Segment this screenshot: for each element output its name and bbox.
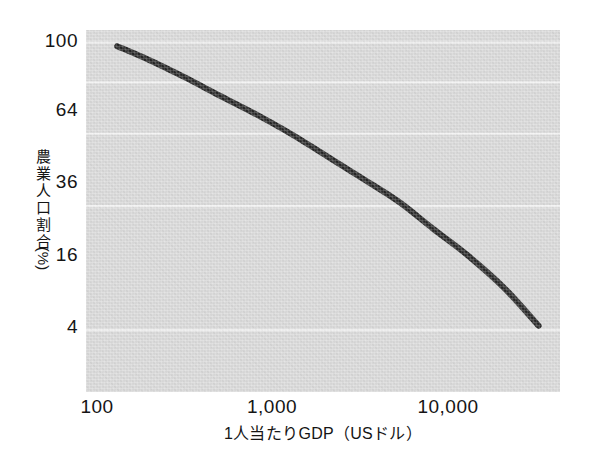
y-axis-title: 農 業 人 口 割 合 (%) xyxy=(30,148,56,267)
x-tick-label-1000: 1,000 xyxy=(247,396,297,418)
y-axis-title-char-4: 割 xyxy=(30,216,56,233)
y-axis-title-unit: (%) xyxy=(35,246,52,272)
x-axis-title: 1人当たりGDP（USドル） xyxy=(86,420,560,444)
x-tick-label-100: 100 xyxy=(80,396,113,418)
y-axis-title-char-1: 業 xyxy=(30,165,56,182)
data-line xyxy=(117,46,538,326)
y-axis-title-char-3: 口 xyxy=(30,199,56,216)
plot-svg xyxy=(86,30,560,392)
x-tick-label-10000: 10,000 xyxy=(417,396,478,418)
y-tick-label-100: 100 xyxy=(0,30,78,52)
y-axis-title-char-0: 農 xyxy=(30,148,56,165)
plot-area xyxy=(86,30,560,392)
gridlines xyxy=(86,42,560,330)
y-tick-label-64: 64 xyxy=(0,99,78,121)
y-axis-title-char-2: 人 xyxy=(30,182,56,199)
chart-figure: 100 64 36 16 4 100 1,000 10,000 農 業 人 口 … xyxy=(0,0,593,466)
y-tick-label-4: 4 xyxy=(0,316,78,338)
